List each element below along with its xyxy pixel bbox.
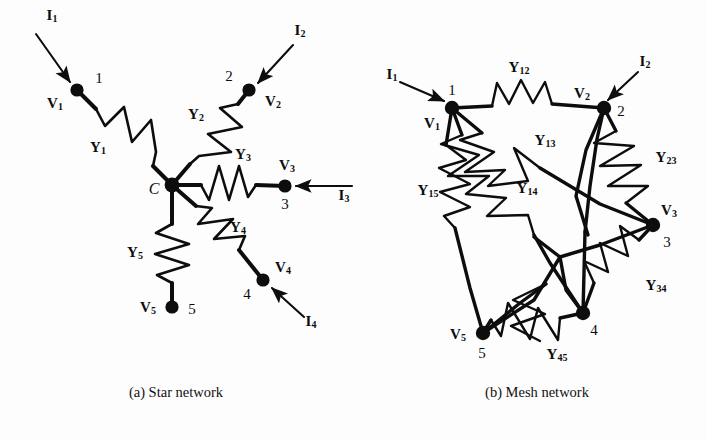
star-node-number-5: 5	[188, 302, 196, 317]
star-node-voltage-2: V2	[265, 94, 281, 110]
star-node-number-1: 1	[95, 71, 103, 86]
star-node-voltage-1: V1	[47, 96, 63, 112]
mesh-node-voltage-3: V3	[661, 203, 677, 219]
star-network-graphics	[36, 34, 352, 317]
star-node-voltage-5: V5	[140, 300, 156, 316]
mesh-node-voltage-2: V2	[574, 86, 590, 102]
star-admittance-label-y1: Y1	[90, 140, 106, 156]
mesh-admittance-label-y14: Y14	[517, 181, 538, 197]
star-node-number-2: 2	[225, 69, 233, 84]
mesh-branch-4-uptie	[560, 257, 583, 313]
mesh-current-arrow-i2	[608, 72, 638, 100]
star-current-label-i2: I2	[295, 23, 306, 39]
mesh-node-number-4: 4	[590, 323, 598, 338]
caption-mesh-network: (b) Mesh network	[485, 384, 589, 401]
star-current-label-i4: I4	[306, 314, 317, 330]
star-center-node-label: C	[149, 181, 160, 197]
star-admittance-label-y2: Y2	[188, 107, 204, 123]
mesh-node-number-1: 1	[448, 83, 456, 98]
star-branch-y1	[77, 90, 172, 185]
mesh-node-number-5: 5	[478, 346, 486, 361]
star-node-voltage-4: V4	[275, 260, 291, 276]
mesh-admittance-label-y34: Y34	[646, 278, 667, 294]
star-current-arrow-i2	[258, 45, 293, 83]
star-node-dots	[70, 83, 291, 313]
mesh-branch-3-to-mid	[534, 225, 653, 257]
mesh-node-number-3: 3	[663, 235, 671, 250]
mesh-admittance-label-y15: Y15	[418, 183, 439, 199]
figure-star-and-mesh-networks: 1V12V23V34V45V5Y1Y2Y3Y4Y5I1I2I3I41V12V23…	[0, 0, 706, 439]
star-current-arrow-i1	[36, 34, 70, 82]
mesh-node-voltage-5: V5	[450, 327, 466, 343]
mesh-node-voltage-1: V1	[424, 116, 440, 132]
mesh-current-arrow-i1	[400, 82, 444, 101]
mesh-admittance-label-y12: Y12	[509, 60, 530, 76]
mesh-branch-5-ties	[483, 257, 560, 341]
caption-star-network: (a) Star network	[129, 384, 223, 401]
mesh-branch-y15	[439, 108, 483, 333]
star-current-label-i1: I1	[47, 8, 58, 24]
network-drawing	[0, 0, 706, 439]
star-node-number-3: 3	[281, 197, 289, 212]
mesh-admittance-label-y23: Y23	[656, 150, 677, 166]
star-branch-y3	[172, 166, 285, 200]
star-admittance-label-y4: Y4	[230, 220, 246, 236]
mesh-current-label-i2: I2	[640, 54, 651, 70]
mesh-admittance-label-y13: Y13	[535, 133, 556, 149]
star-admittance-label-y3: Y3	[235, 147, 251, 163]
star-branch-y5	[155, 185, 189, 307]
star-admittance-label-y5: Y5	[127, 245, 143, 261]
star-current-arrow-i4	[272, 288, 304, 317]
star-node-number-4: 4	[243, 287, 251, 302]
mesh-node-number-2: 2	[617, 104, 625, 119]
mesh-current-label-i1: I1	[387, 67, 398, 83]
mesh-admittance-label-y45: Y45	[547, 347, 568, 363]
mesh-branch-y23	[594, 108, 653, 225]
star-node-voltage-3: V3	[279, 158, 295, 174]
star-current-label-i3: I3	[339, 188, 350, 204]
